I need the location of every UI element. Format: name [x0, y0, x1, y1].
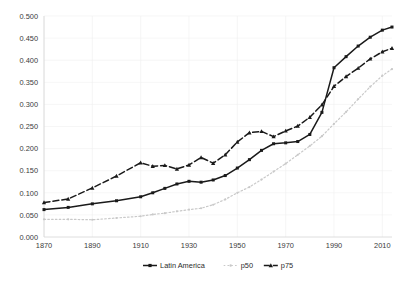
data-point — [272, 170, 274, 172]
x-tick-label: 1930 — [181, 241, 197, 250]
data-point — [224, 174, 227, 177]
data-point — [139, 195, 142, 198]
data-point — [259, 129, 263, 133]
series-latin-america — [43, 26, 394, 212]
x-tick-label: 1990 — [326, 241, 342, 250]
data-point — [175, 182, 178, 185]
legend-item-p50[interactable]: p50 — [224, 261, 253, 270]
chart-legend: Latin Americap50p75 — [143, 261, 293, 270]
data-point — [200, 181, 203, 184]
data-point — [114, 174, 118, 178]
x-tick-label: 1890 — [84, 241, 100, 250]
data-point — [247, 130, 251, 134]
x-tick-label: 1910 — [132, 241, 148, 250]
data-point — [320, 111, 323, 114]
y-tick-label: 0.450 — [20, 34, 39, 43]
y-tick-label: 0.200 — [20, 144, 39, 153]
data-point — [224, 198, 226, 200]
series-line — [44, 48, 392, 202]
y-tick-label: 0.050 — [20, 211, 39, 220]
data-point — [357, 98, 359, 100]
data-point — [285, 163, 287, 165]
data-point — [90, 186, 94, 190]
data-point — [345, 111, 347, 113]
data-point — [151, 191, 154, 194]
data-point — [115, 217, 117, 219]
series-p50 — [43, 68, 393, 221]
y-axis-tick-labels: 0.0000.0500.1000.1500.2000.2500.3000.350… — [20, 12, 39, 242]
y-tick-label: 0.150 — [20, 166, 39, 175]
x-tick-label: 1950 — [229, 241, 245, 250]
y-tick-label: 0.350 — [20, 78, 39, 87]
data-point — [140, 215, 142, 217]
data-point — [308, 133, 311, 136]
x-tick-label: 1870 — [36, 241, 52, 250]
legend-label: Latin America — [160, 261, 206, 270]
data-point — [212, 178, 215, 181]
data-point — [369, 86, 371, 88]
data-point — [248, 158, 251, 161]
legend-label: p75 — [281, 261, 293, 270]
data-point — [152, 213, 154, 215]
legend-item-latin-america[interactable]: Latin America — [143, 261, 206, 270]
data-point — [176, 210, 178, 212]
data-point — [381, 75, 383, 77]
data-point — [188, 180, 191, 183]
data-point — [297, 154, 299, 156]
x-tick-label: 2010 — [374, 241, 390, 250]
data-point — [163, 187, 166, 190]
legend-label: p50 — [241, 261, 253, 270]
data-point — [248, 186, 250, 188]
y-tick-label: 0.400 — [20, 56, 39, 65]
data-point — [43, 218, 45, 220]
data-point — [236, 167, 239, 170]
data-point — [321, 135, 323, 137]
data-point — [67, 206, 70, 209]
data-point — [236, 192, 238, 194]
data-point — [212, 204, 214, 206]
data-point — [272, 142, 275, 145]
data-point — [139, 161, 143, 165]
y-tick-label: 0.500 — [20, 12, 39, 21]
data-point — [199, 155, 203, 159]
data-point — [115, 199, 118, 202]
data-point — [260, 178, 262, 180]
y-tick-label: 0.100 — [20, 189, 39, 198]
data-point — [333, 66, 336, 69]
data-point — [309, 145, 311, 147]
data-series-group — [42, 26, 394, 221]
data-point — [188, 209, 190, 211]
data-point — [91, 219, 93, 221]
data-point — [345, 55, 348, 58]
data-point — [357, 45, 360, 48]
series-p75 — [42, 46, 394, 204]
data-point — [391, 26, 394, 29]
data-point — [43, 208, 46, 211]
chart-container: 0.0000.0500.1000.1500.2000.2500.3000.350… — [0, 0, 400, 282]
data-point — [381, 29, 384, 32]
legend-marker — [148, 264, 151, 267]
series-line — [44, 69, 392, 220]
data-point — [67, 218, 69, 220]
data-point — [91, 202, 94, 205]
data-point — [164, 212, 166, 214]
data-point — [284, 141, 287, 144]
data-point — [369, 36, 372, 39]
y-tick-label: 0.300 — [20, 100, 39, 109]
data-point — [296, 140, 299, 143]
legend-item-p75[interactable]: p75 — [264, 261, 293, 270]
line-chart: 0.0000.0500.1000.1500.2000.2500.3000.350… — [0, 0, 400, 282]
data-point — [333, 123, 335, 125]
x-axis-tick-labels: 18701890191019301950197019902010 — [36, 241, 391, 250]
data-point — [200, 207, 202, 209]
x-tick-label: 1970 — [277, 241, 293, 250]
data-point — [260, 149, 263, 152]
legend-marker — [229, 264, 231, 266]
y-tick-label: 0.250 — [20, 122, 39, 131]
data-point — [391, 68, 393, 70]
